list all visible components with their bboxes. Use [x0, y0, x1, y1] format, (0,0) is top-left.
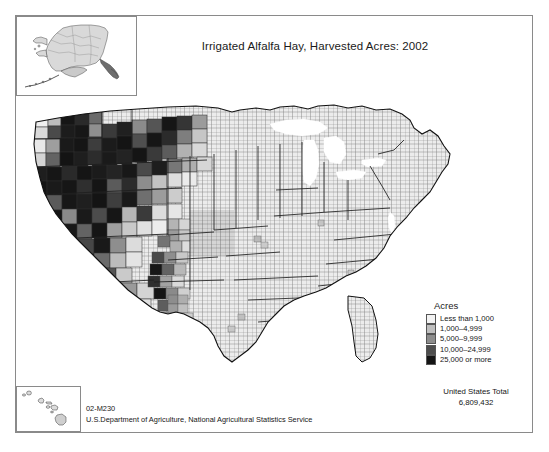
legend-swatch-4 [426, 355, 436, 365]
legend-item-4: 25,000 or more [426, 355, 526, 365]
legend-item-0: Less than 1,000 [426, 314, 526, 324]
alaska-inset [16, 16, 137, 96]
legend-label-2: 5,000–9,999 [440, 334, 482, 344]
legend-label-4: 25,000 or more [440, 355, 492, 365]
legend: Acres Less than 1,000 1,000–4,999 5,000–… [426, 300, 526, 365]
map-sheet: Irrigated Alfalfa Hay, Harvested Acres: … [0, 0, 549, 452]
us-total-value: 6,809,432 [424, 397, 528, 408]
us-total-label: United States Total [424, 386, 528, 397]
legend-title: Acres [434, 300, 526, 311]
us-map-svg [18, 100, 478, 400]
legend-label-3: 10,000–24,999 [440, 345, 491, 355]
legend-item-3: 10,000–24,999 [426, 345, 526, 355]
us-county-choropleth [18, 100, 478, 400]
legend-item-2: 5,000–9,999 [426, 334, 526, 344]
legend-item-1: 1,000–4,999 [426, 324, 526, 334]
legend-swatch-2 [426, 334, 436, 344]
alaska-inset-map [17, 17, 136, 95]
legend-swatch-3 [426, 345, 436, 355]
map-code: 02-M230 [86, 403, 312, 414]
legend-swatch-1 [426, 324, 436, 334]
us-total-block: United States Total 6,809,432 [424, 386, 528, 408]
legend-label-1: 1,000–4,999 [440, 324, 482, 334]
footer: 02-M230 U.S.Department of Agriculture, N… [86, 403, 312, 425]
page-title: Irrigated Alfalfa Hay, Harvested Acres: … [150, 40, 480, 52]
agency-credit: U.S.Department of Agriculture, National … [86, 414, 312, 425]
legend-label-0: Less than 1,000 [440, 314, 494, 324]
legend-swatch-0 [426, 314, 436, 324]
